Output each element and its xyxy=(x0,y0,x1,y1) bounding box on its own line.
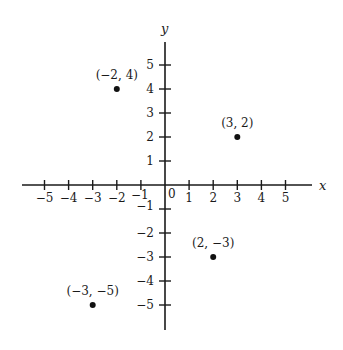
coordinate-plane: x y 0 −5−4−3−2−112345 54321−1−2−3−4−5 (−… xyxy=(0,0,343,350)
point-marker xyxy=(234,134,240,140)
x-tick-label: 2 xyxy=(209,191,217,205)
x-tick-label: 3 xyxy=(233,191,241,205)
y-tick-label: −4 xyxy=(136,274,154,288)
point-marker xyxy=(114,86,120,92)
y-tick-label: −1 xyxy=(136,199,154,213)
x-tick-label: 5 xyxy=(282,191,290,205)
x-tick-label: 4 xyxy=(258,191,266,205)
y-tick-label: −2 xyxy=(136,226,154,240)
x-tick-label: −5 xyxy=(36,191,54,205)
x-tick-label: −3 xyxy=(84,191,102,205)
y-tick-label: −3 xyxy=(136,250,154,264)
y-tick-label: −5 xyxy=(136,298,154,312)
y-tick-label: 2 xyxy=(146,130,154,144)
point-label: (−2, 4) xyxy=(96,68,138,82)
y-tick-label: 5 xyxy=(146,58,154,72)
point-label: (2, −3) xyxy=(192,236,234,250)
point-marker xyxy=(210,254,216,260)
x-tick-label: −4 xyxy=(60,191,78,205)
plotted-points: (−2, 4)(3, 2)(2, −3)(−3, −5) xyxy=(67,68,254,308)
point-label: (3, 2) xyxy=(221,116,253,130)
y-tick-label: 3 xyxy=(146,106,154,120)
x-tick-label: 1 xyxy=(185,191,193,205)
x-tick-label: −2 xyxy=(108,191,126,205)
y-axis-label: y xyxy=(160,21,169,36)
point-marker xyxy=(90,302,96,308)
y-tick-label: 1 xyxy=(146,154,154,168)
point-label: (−3, −5) xyxy=(67,284,119,298)
x-axis-label: x xyxy=(319,178,327,193)
y-tick-label: 4 xyxy=(146,82,154,96)
x-axis-ticks: −5−4−3−2−112345 xyxy=(36,180,290,205)
origin-label: 0 xyxy=(168,187,176,201)
